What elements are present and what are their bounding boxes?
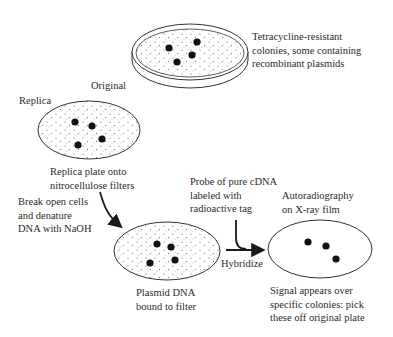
- denature-arrow: [100, 192, 120, 226]
- xray-film: [268, 220, 372, 278]
- signal-spot: [304, 238, 311, 245]
- colony-dot: [88, 122, 95, 129]
- colony-dot: [74, 141, 81, 148]
- denature-note: Break open cells and denature DNA with N…: [18, 195, 92, 236]
- original-petri-dish: [132, 24, 248, 88]
- colony-dot: [153, 240, 160, 247]
- signal-spot: [322, 242, 329, 249]
- original-label: Original: [91, 79, 126, 93]
- colony-dot: [146, 259, 153, 266]
- colony-dot: [188, 51, 195, 58]
- filter-note: Plasmid DNA bound to filter: [136, 286, 196, 313]
- colony-dot: [173, 58, 180, 65]
- hybridize-label: Hybridize: [221, 257, 263, 271]
- film-title: Autoradiography on X-ray film: [282, 189, 354, 216]
- film-note: Signal appears over specific colonies: p…: [270, 284, 365, 325]
- colony-dot: [98, 135, 105, 142]
- original-note: Tetracycline-resistant colonies, some co…: [252, 30, 361, 71]
- colony-dot: [167, 243, 174, 250]
- nitrocellulose-filter: [114, 222, 220, 280]
- colony-dot: [193, 38, 200, 45]
- replica-label: Replica: [19, 94, 51, 108]
- colony-dot: [71, 118, 78, 125]
- colony-dot: [171, 256, 178, 263]
- signal-spot: [332, 255, 339, 262]
- colony-dot: [165, 44, 172, 51]
- probe-note: Probe of pure cDNA labeled with radioact…: [190, 175, 277, 216]
- replica-plate: [38, 101, 140, 159]
- probe-arrow: [236, 220, 246, 249]
- replica-note: Replica plate onto nitrocellulose filter…: [50, 165, 134, 192]
